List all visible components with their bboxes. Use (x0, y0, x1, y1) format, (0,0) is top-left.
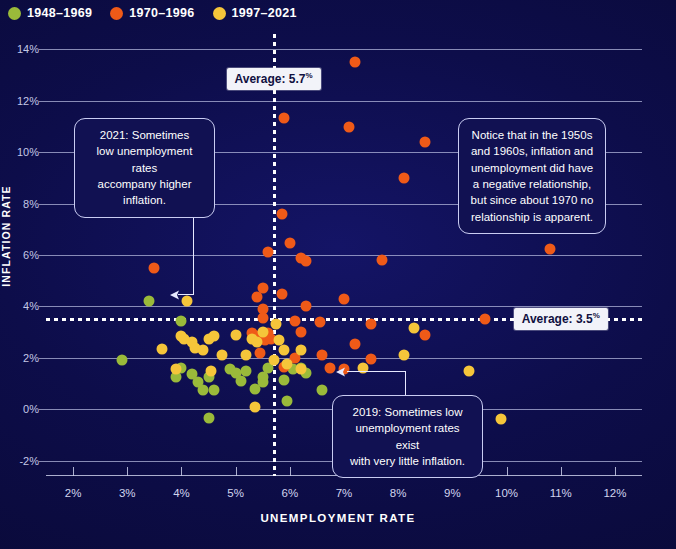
annotation-line: relationship is apparent. (469, 209, 595, 225)
annotation-line: unemployment rates exist (343, 420, 472, 453)
data-point[interactable] (398, 172, 409, 183)
data-point[interactable] (544, 243, 555, 254)
data-point[interactable] (171, 364, 182, 375)
data-point[interactable] (257, 327, 268, 338)
y-gridline (46, 101, 642, 102)
data-point[interactable] (241, 365, 252, 376)
data-point[interactable] (279, 345, 290, 356)
y-tick-mark (39, 152, 46, 153)
anno-2021: 2021: Sometimeslow unemployment ratesacc… (74, 118, 215, 218)
data-point[interactable] (217, 350, 228, 361)
y-axis-title: INFLATION RATE (0, 185, 12, 286)
data-point[interactable] (295, 364, 306, 375)
data-point[interactable] (179, 333, 190, 344)
data-point[interactable] (257, 312, 268, 323)
circle-marker-icon (110, 7, 123, 20)
data-point[interactable] (230, 329, 241, 340)
data-point[interactable] (241, 350, 252, 361)
data-point[interactable] (198, 384, 209, 395)
data-point[interactable] (282, 396, 293, 407)
y-axis-tick-label: 2% (23, 352, 39, 364)
data-point[interactable] (208, 384, 219, 395)
x-tick-mark (73, 467, 74, 476)
annotation-line: but since about 1970 no (469, 192, 595, 208)
x-axis-tick-label: 9% (444, 487, 461, 499)
data-point[interactable] (317, 384, 328, 395)
average-inflation-text: Average: 3.5 (522, 312, 593, 326)
data-point[interactable] (263, 247, 274, 258)
data-point[interactable] (116, 355, 127, 366)
data-point[interactable] (276, 208, 287, 219)
x-tick-mark (236, 467, 237, 476)
data-point[interactable] (496, 414, 507, 425)
annotation-line: with very little inflation. (343, 453, 472, 469)
data-point[interactable] (409, 323, 420, 334)
average-unemployment-line (273, 34, 276, 476)
data-point[interactable] (463, 365, 474, 376)
data-point[interactable] (290, 315, 301, 326)
data-point[interactable] (479, 314, 490, 325)
y-axis-tick-label: 6% (23, 249, 39, 261)
data-point[interactable] (236, 375, 247, 386)
data-point[interactable] (276, 288, 287, 299)
data-point[interactable] (279, 112, 290, 123)
data-point[interactable] (284, 238, 295, 249)
data-point[interactable] (339, 293, 350, 304)
data-point[interactable] (252, 292, 263, 303)
x-axis-title: UNEMPLOYMENT RATE (0, 512, 676, 524)
x-tick-mark (507, 467, 508, 476)
data-point[interactable] (268, 355, 279, 366)
legend-item-2[interactable]: 1970–1996 (110, 6, 194, 20)
data-point[interactable] (279, 374, 290, 385)
y-axis-tick-label: -2% (19, 455, 39, 467)
data-point[interactable] (157, 343, 168, 354)
data-point[interactable] (301, 301, 312, 312)
data-point[interactable] (295, 327, 306, 338)
data-point[interactable] (252, 337, 263, 348)
x-axis-tick-label: 10% (495, 487, 518, 499)
annotation-line: unemployment did have (469, 160, 595, 176)
data-point[interactable] (271, 319, 282, 330)
legend-item-label: 1997–2021 (232, 6, 297, 20)
data-point[interactable] (376, 255, 387, 266)
data-point[interactable] (344, 121, 355, 132)
y-tick-mark (39, 255, 46, 256)
data-point[interactable] (176, 315, 187, 326)
y-tick-mark (39, 358, 46, 359)
data-point[interactable] (143, 296, 154, 307)
data-point[interactable] (257, 377, 268, 388)
data-point[interactable] (366, 319, 377, 330)
data-point[interactable] (349, 57, 360, 68)
data-point[interactable] (420, 329, 431, 340)
data-point[interactable] (314, 316, 325, 327)
y-axis-tick-label: 12% (17, 95, 39, 107)
y-tick-mark (39, 49, 46, 50)
anno-2019: 2019: Sometimes lowunemployment rates ex… (332, 395, 483, 478)
average-inflation-label: Average: 3.5% (514, 308, 608, 330)
data-point[interactable] (149, 262, 160, 273)
data-point[interactable] (317, 350, 328, 361)
legend-item-1[interactable]: 1948–1969 (8, 6, 92, 20)
data-point[interactable] (198, 345, 209, 356)
data-point[interactable] (206, 365, 217, 376)
annotation-line: accompany higher inflation. (85, 176, 204, 209)
data-point[interactable] (249, 401, 260, 412)
data-point[interactable] (398, 350, 409, 361)
data-point[interactable] (325, 363, 336, 374)
data-point[interactable] (255, 347, 266, 358)
annotation-leader-line (347, 371, 406, 372)
data-point[interactable] (349, 338, 360, 349)
data-point[interactable] (282, 359, 293, 370)
data-point[interactable] (301, 256, 312, 267)
legend-item-3[interactable]: 1997–2021 (213, 6, 297, 20)
data-point[interactable] (203, 333, 214, 344)
x-axis-tick-label: 6% (282, 487, 299, 499)
data-point[interactable] (366, 354, 377, 365)
data-point[interactable] (295, 345, 306, 356)
data-point[interactable] (420, 136, 431, 147)
y-tick-mark (39, 306, 46, 307)
y-tick-mark (39, 409, 46, 410)
data-point[interactable] (203, 413, 214, 424)
annotation-arrow-icon (170, 289, 184, 301)
y-tick-mark (39, 461, 46, 462)
